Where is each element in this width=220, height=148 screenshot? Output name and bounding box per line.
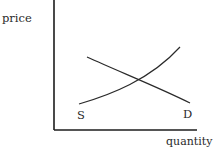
x-axis-label: quantity bbox=[166, 136, 212, 147]
y-axis-label: price bbox=[2, 13, 32, 25]
supply-demand-diagram bbox=[0, 0, 220, 148]
supply-label: S bbox=[77, 110, 85, 122]
demand-label: D bbox=[183, 109, 192, 121]
